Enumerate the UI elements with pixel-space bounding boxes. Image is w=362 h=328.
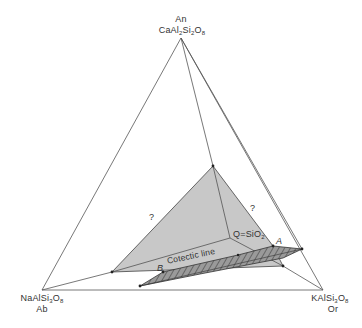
q-label: Q=SiO2 [233,229,265,242]
apex-left-short: Ab [22,304,62,314]
unknown-label-left: ? [149,212,154,222]
apex-top-formula: CaAl2Si2O8 [148,25,216,38]
unknown-label-right: ? [250,203,255,213]
ternary-diagram [0,0,362,328]
apex-top-short: An [160,14,202,24]
apex-right-short: Or [318,304,348,314]
point-a-label: A [276,236,282,246]
point-b-label: B [157,263,163,273]
